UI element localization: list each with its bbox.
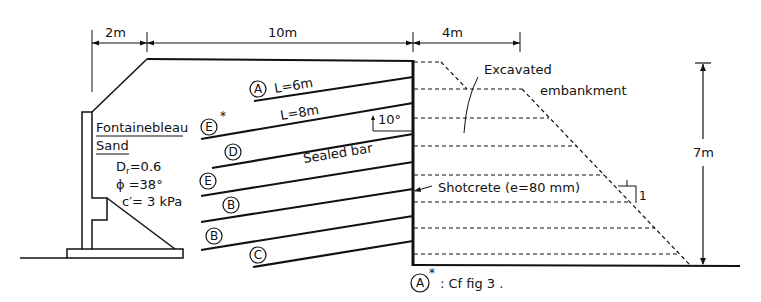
soil-mass-outline: [92, 59, 413, 112]
nail-B-lower: [201, 216, 413, 250]
height-dimension: [695, 63, 711, 265]
soil-relative-density: Dr=0.6: [116, 159, 161, 176]
dimension-7m: 7m: [693, 145, 714, 160]
shotcrete-label: Shotcrete (e=80 mm): [438, 180, 580, 195]
svg-text:*: *: [429, 266, 435, 280]
nail-label-E-star: E *: [201, 109, 226, 135]
soil-cohesion: c′= 3 kPa: [122, 194, 182, 209]
svg-text:B: B: [210, 229, 218, 243]
nail-E: [201, 162, 413, 196]
nail-label-B-upper: B: [223, 197, 239, 213]
footnote: A * : Cf fig 3 .: [411, 266, 503, 292]
soil-nailed-wall-diagram: 2m 10m 4m Fontainebleau Sand Dr=0.6 ϕ =3…: [0, 0, 761, 302]
slope-vertical-1: 1: [639, 189, 647, 203]
dimension-4m: 4m: [442, 25, 463, 40]
nail-C: [253, 241, 413, 267]
svg-text:A: A: [416, 276, 425, 290]
shotcrete-leader: [414, 186, 432, 192]
svg-text:E: E: [205, 120, 213, 134]
svg-text:C: C: [254, 248, 262, 262]
soil-friction-angle: ϕ =38°: [116, 177, 163, 192]
ground-line: [20, 258, 740, 266]
svg-text:E: E: [204, 174, 212, 188]
svg-text:*: *: [220, 109, 226, 123]
angle-10-degrees: 10°: [378, 112, 401, 127]
nail-label-A: A: [250, 81, 266, 97]
dimension-2m: 2m: [105, 25, 126, 40]
excavated-label-line1: Excavated: [484, 62, 552, 77]
footnote-text: : Cf fig 3 .: [440, 276, 503, 291]
soil-name-line2: Sand: [96, 138, 129, 153]
sealed-bar-label: Sealed bar: [302, 140, 374, 166]
dimension-10m: 10m: [268, 25, 297, 40]
nail-label-B-lower: B: [206, 228, 222, 244]
embankment-leader-line: [464, 77, 478, 133]
svg-text:D: D: [228, 145, 237, 159]
nail-label-E: E: [200, 173, 216, 189]
svg-text:B: B: [227, 198, 235, 212]
svg-text:A: A: [254, 82, 263, 96]
soil-name-line1: Fontainebleau: [96, 120, 188, 135]
nail-label-C: C: [250, 247, 266, 263]
excavated-label-line2: embankment: [540, 83, 627, 98]
nail-label-D: D: [225, 144, 241, 160]
slope-ratio-indicator: [618, 180, 636, 203]
